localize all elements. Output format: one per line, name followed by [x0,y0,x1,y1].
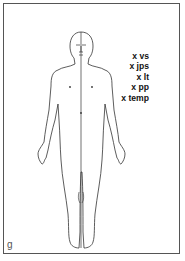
marker-label: x jps [121,61,149,71]
sensory-markers-list: x vs x jps x lt x pp x temp [121,51,149,103]
marker-label: x temp [121,93,149,103]
marker-label: x vs [121,51,149,61]
panel-letter: g [7,239,13,250]
marker-label: x lt [121,72,149,82]
body-outline-diagram [0,0,185,261]
marker-label: x pp [121,82,149,92]
